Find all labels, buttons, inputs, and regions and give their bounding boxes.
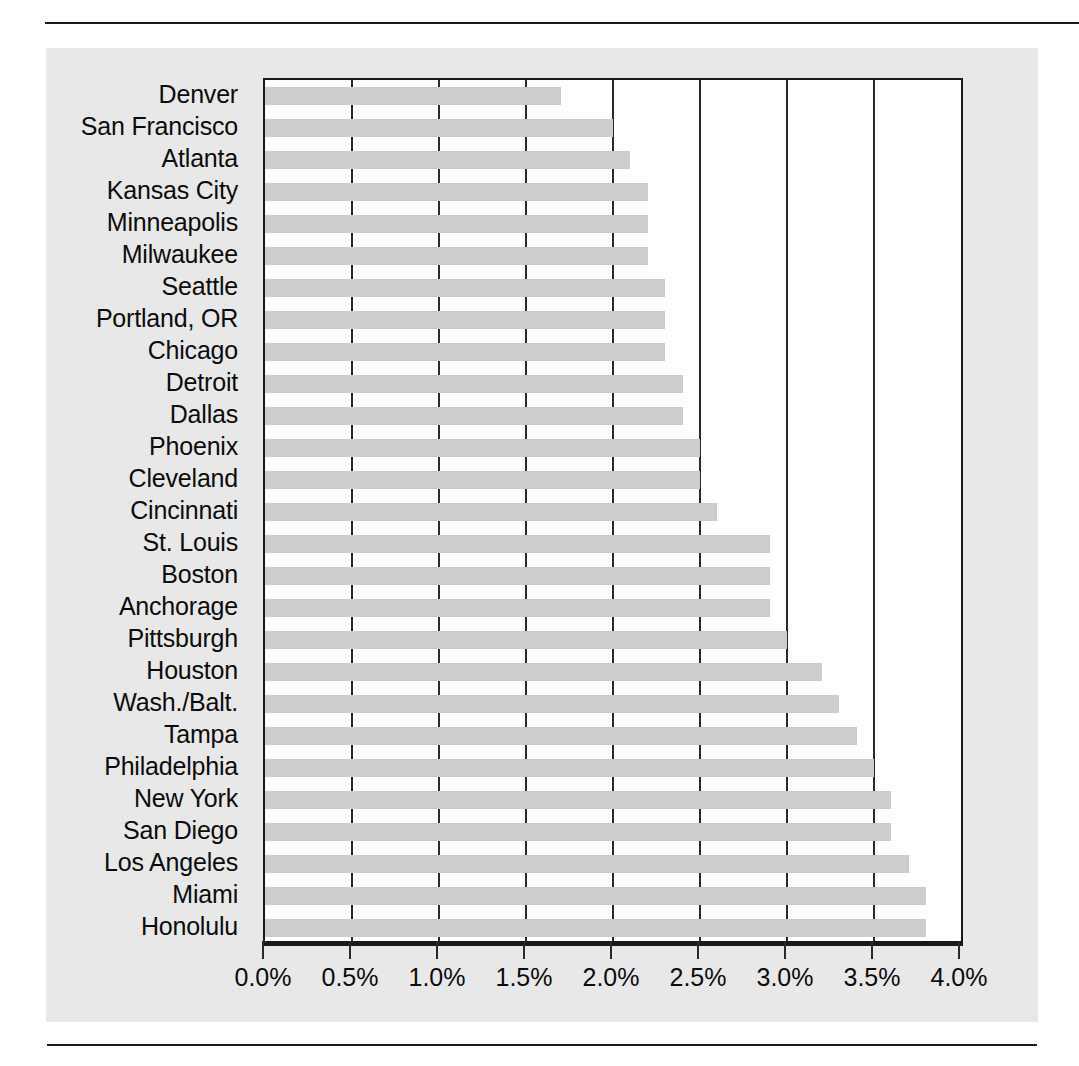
y-axis-label: Phoenix bbox=[149, 430, 238, 462]
bar bbox=[265, 279, 665, 297]
bar bbox=[265, 407, 683, 425]
x-axis-tick bbox=[262, 941, 264, 959]
bar-row bbox=[265, 176, 961, 208]
bar bbox=[265, 663, 822, 681]
y-axis-label: Houston bbox=[146, 654, 238, 686]
y-axis-label: San Francisco bbox=[81, 110, 238, 142]
bar-row bbox=[265, 752, 961, 784]
x-axis-tick bbox=[610, 941, 612, 959]
y-axis-label: Minneapolis bbox=[107, 206, 238, 238]
bar-row bbox=[265, 496, 961, 528]
bar bbox=[265, 887, 926, 905]
plot-area bbox=[263, 78, 963, 946]
bar-row bbox=[265, 720, 961, 752]
y-axis-label: Atlanta bbox=[162, 142, 238, 174]
y-axis-label: Wash./Balt. bbox=[113, 686, 238, 718]
bar-row bbox=[265, 208, 961, 240]
bar bbox=[265, 855, 909, 873]
bottom-divider-rule bbox=[47, 1044, 1037, 1046]
y-axis-label: Los Angeles bbox=[104, 846, 238, 878]
bar bbox=[265, 535, 770, 553]
bar-row bbox=[265, 432, 961, 464]
y-axis-label: New York bbox=[134, 782, 238, 814]
y-axis-label: Kansas City bbox=[107, 174, 238, 206]
bar bbox=[265, 567, 770, 585]
y-axis-label: Detroit bbox=[166, 366, 238, 398]
y-axis-label: Philadelphia bbox=[104, 750, 238, 782]
y-axis-label: Tampa bbox=[164, 718, 238, 750]
bar-row bbox=[265, 816, 961, 848]
x-axis-tick bbox=[871, 941, 873, 959]
bar bbox=[265, 919, 926, 937]
x-axis-tick-label: 4.0% bbox=[904, 963, 1014, 992]
bar bbox=[265, 119, 613, 137]
y-axis-label: Boston bbox=[161, 558, 238, 590]
bar bbox=[265, 375, 683, 393]
bar bbox=[265, 151, 630, 169]
bar-row bbox=[265, 240, 961, 272]
x-axis-tick bbox=[958, 941, 960, 959]
bar-row bbox=[265, 560, 961, 592]
bar-row bbox=[265, 272, 961, 304]
bar bbox=[265, 439, 700, 457]
bar bbox=[265, 727, 857, 745]
bar-row bbox=[265, 784, 961, 816]
bar bbox=[265, 503, 717, 521]
bar-row bbox=[265, 112, 961, 144]
bar bbox=[265, 183, 648, 201]
bar-row bbox=[265, 80, 961, 112]
bar bbox=[265, 87, 561, 105]
bar bbox=[265, 247, 648, 265]
bar-row bbox=[265, 912, 961, 944]
y-axis-label: Miami bbox=[172, 878, 238, 910]
bar-row bbox=[265, 880, 961, 912]
y-axis-label: Honolulu bbox=[141, 910, 238, 942]
y-axis-label: Anchorage bbox=[119, 590, 238, 622]
bar bbox=[265, 215, 648, 233]
y-axis-label: Denver bbox=[159, 78, 238, 110]
horizontal-bar-chart: DenverSan FranciscoAtlantaKansas CityMin… bbox=[0, 0, 1079, 1066]
y-axis-label: Milwaukee bbox=[122, 238, 238, 270]
bar-row bbox=[265, 464, 961, 496]
bar-row bbox=[265, 304, 961, 336]
bar-row bbox=[265, 848, 961, 880]
x-axis-tick bbox=[697, 941, 699, 959]
y-axis-label: Portland, OR bbox=[96, 302, 238, 334]
bar-row bbox=[265, 688, 961, 720]
bar bbox=[265, 791, 891, 809]
y-axis-label: Chicago bbox=[148, 334, 238, 366]
y-axis-label: St. Louis bbox=[143, 526, 238, 558]
bar bbox=[265, 471, 700, 489]
bar-row bbox=[265, 368, 961, 400]
bar-row bbox=[265, 528, 961, 560]
bar bbox=[265, 599, 770, 617]
bar-row bbox=[265, 592, 961, 624]
y-axis-label: Dallas bbox=[170, 398, 238, 430]
bar bbox=[265, 631, 787, 649]
y-axis-label: Seattle bbox=[162, 270, 238, 302]
x-axis-line bbox=[263, 941, 961, 944]
y-axis-label: Cleveland bbox=[129, 462, 238, 494]
bar bbox=[265, 759, 874, 777]
bar bbox=[265, 823, 891, 841]
x-axis-tick bbox=[784, 941, 786, 959]
x-axis-tick bbox=[523, 941, 525, 959]
bar-row bbox=[265, 336, 961, 368]
bar-row bbox=[265, 144, 961, 176]
bar-row bbox=[265, 656, 961, 688]
x-axis-tick bbox=[349, 941, 351, 959]
y-axis-category-labels: DenverSan FranciscoAtlantaKansas CityMin… bbox=[0, 78, 256, 942]
bar bbox=[265, 695, 839, 713]
bar-row bbox=[265, 400, 961, 432]
y-axis-label: San Diego bbox=[123, 814, 238, 846]
bar-row bbox=[265, 624, 961, 656]
y-axis-label: Pittsburgh bbox=[127, 622, 238, 654]
bar bbox=[265, 343, 665, 361]
bar bbox=[265, 311, 665, 329]
x-axis-tick bbox=[436, 941, 438, 959]
y-axis-label: Cincinnati bbox=[130, 494, 238, 526]
